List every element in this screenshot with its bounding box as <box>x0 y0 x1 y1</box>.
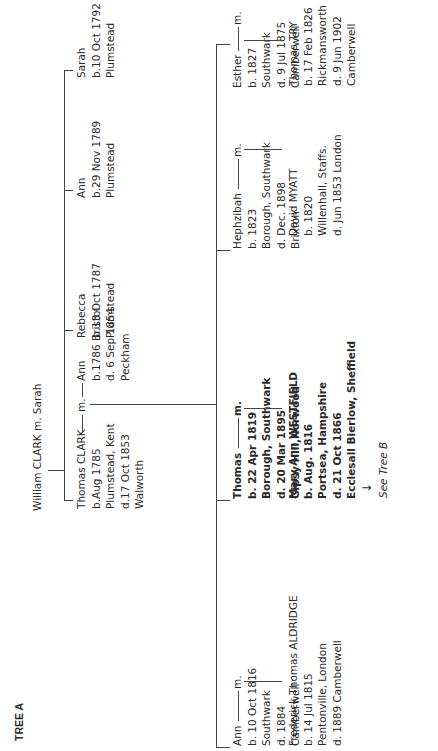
person-frederick-aldridge: Frederick Thomas ALDRIDGE b. 14 Jul 1815… <box>286 595 344 746</box>
marriage-dash <box>238 418 239 448</box>
person-birthplace: Borough, Southwark <box>259 378 274 499</box>
spouse-link-line <box>244 681 282 682</box>
gen2-drop-hephzibah <box>216 250 230 251</box>
person-deathplace: Ecclesall Bierlow, Sheffield <box>344 341 359 499</box>
person-thomas-clark: Thomas CLARK b.Aug 1785 Plumstead, Kent … <box>74 423 147 509</box>
person-birth: b. 1827 <box>245 22 260 88</box>
person-birth: b.29 Nov 1789 <box>89 121 104 198</box>
gen1-drop-thomas <box>64 500 73 501</box>
person-birthplace: Rickmansworth <box>315 5 330 86</box>
marriage-dash <box>238 159 239 189</box>
gen2-descent-line <box>90 404 216 405</box>
gen2-drop-ann <box>216 747 230 748</box>
gen2-drop-thomas <box>216 500 230 501</box>
marriage-label: m. <box>230 143 245 157</box>
spouse-link-line <box>244 149 282 150</box>
person-birth: b. 1820 <box>301 134 316 236</box>
person-birth: b.13 Oct 1787 <box>89 263 104 338</box>
person-deathplace: Peckham <box>118 308 133 381</box>
person-birth: b. 17 Feb 1826 <box>301 5 316 86</box>
person-thomas-try: Thomas TRY b. 17 Feb 1826 Rickmansworth … <box>286 5 359 86</box>
person-death: d. 9 Jun 1902 <box>330 5 345 86</box>
marriage-dash <box>82 383 83 397</box>
gen1-drop-ann <box>64 190 73 191</box>
gen2-sibling-bar <box>216 44 217 748</box>
person-death: d.17 Oct 1853 <box>118 423 133 509</box>
marriage-dash <box>82 415 83 433</box>
marriage-label: m. <box>230 401 245 416</box>
person-name: Ann <box>74 121 89 198</box>
person-birthplace: Southwark <box>259 22 274 88</box>
spouse-link-line <box>244 40 282 41</box>
gen1-sibling-bar <box>64 71 65 501</box>
marriage-label: m. <box>74 398 89 412</box>
marriage-label: m. <box>230 11 245 25</box>
person-name: David MYATT <box>286 134 301 236</box>
gen1-drop-sarah <box>64 70 73 71</box>
tree-title: TREE A <box>12 703 27 741</box>
person-birthplace: Plumstead <box>103 121 118 198</box>
person-birth: b. Aug. 1816 <box>301 341 316 499</box>
person-death: d. Jun 1853 London <box>330 134 345 236</box>
marriage-dash <box>238 27 239 51</box>
person-birthplace: Willenhall, Staffs. <box>315 134 330 236</box>
person-birthplace: Plumstead, Kent <box>103 423 118 509</box>
spouse-link-line <box>244 408 282 409</box>
arrow-down-icon: ↓ <box>360 483 375 493</box>
person-name: Mary Ann WESTFIELD <box>286 341 301 499</box>
person-death: d. 21 Oct 1866 <box>330 341 345 499</box>
person-birth: b.Aug 1785 <box>89 423 104 509</box>
person-david-myatt: David MYATT b. 1820 Willenhall, Staffs. … <box>286 134 344 236</box>
person-name: Sarah <box>74 3 89 78</box>
root-descent-line <box>48 470 65 471</box>
person-name: Thomas TRY <box>286 5 301 86</box>
person-birthplace: Pentonville, London <box>315 595 330 746</box>
person-birth: b.10 Oct 1792 <box>89 3 104 78</box>
person-birth: b. 22 Apr 1819 <box>245 378 260 499</box>
person-deathplace: Camberwell <box>344 5 359 86</box>
gen1-drop-rebecca <box>64 330 73 331</box>
see-tree-b-link[interactable]: See Tree B <box>376 442 391 498</box>
root-couple: William CLARK m. Sarah <box>30 384 45 511</box>
person-birthplace: Borough, Southwark <box>259 142 274 249</box>
marriage-label: m. <box>230 675 245 689</box>
person-sarah: Sarah b.10 Oct 1792 Plumstead <box>74 3 118 78</box>
person-birthplace: Portsea, Hampshire <box>315 341 330 499</box>
person-birth: b. 10 Oct 1816 <box>245 668 260 746</box>
person-mary-ann-westfield: Mary Ann WESTFIELD b. Aug. 1816 Portsea,… <box>286 341 359 499</box>
gen2-drop-esther <box>216 44 230 45</box>
marriage-dash <box>238 691 239 721</box>
person-birthplace: Plumstead <box>103 3 118 78</box>
person-birth: b. 14 Jul 1815 <box>301 595 316 746</box>
family-tree-page: TREE A William CLARK m. Sarah Thomas CLA… <box>0 0 438 751</box>
person-name: Rebecca <box>74 263 89 338</box>
person-name: Thomas CLARK <box>75 429 87 509</box>
person-deathplace: Walworth <box>132 423 147 509</box>
person-birthplace: Southwark <box>259 668 274 746</box>
person-death: d. 1889 Camberwell <box>330 595 345 746</box>
person-name: Frederick Thomas ALDRIDGE <box>286 595 301 746</box>
person-birthplace: Plumstead <box>103 263 118 338</box>
person-rebecca: Rebecca b.13 Oct 1787 Plumstead <box>74 263 118 338</box>
person-birth: b. 1823 <box>245 142 260 249</box>
person-ann: Ann b.29 Nov 1789 Plumstead <box>74 121 118 198</box>
